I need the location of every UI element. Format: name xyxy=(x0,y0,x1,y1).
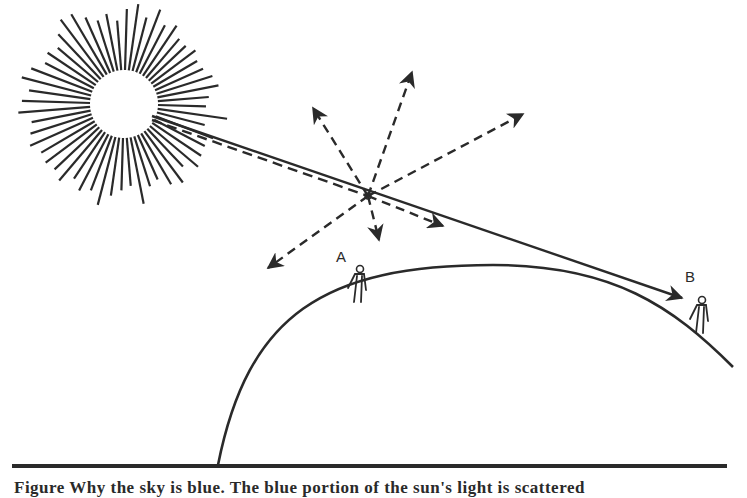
earth-surface-arc xyxy=(218,265,733,465)
sun-ray xyxy=(117,21,121,70)
sun-ray xyxy=(22,101,90,103)
observer-b-icon xyxy=(690,297,708,334)
blue-light-beam xyxy=(152,120,368,196)
observer-label: B xyxy=(685,268,695,285)
scattered-ray-up xyxy=(368,72,412,196)
sun-ray xyxy=(121,138,123,190)
scattered-ray-lower-left xyxy=(268,196,368,268)
scattered-ray-upper-right xyxy=(368,114,523,196)
sun-ray xyxy=(158,109,227,119)
figure-caption: Figure Why the sky is blue. The blue por… xyxy=(14,478,747,498)
sun-ray xyxy=(129,4,138,70)
scattered-ray-upper-left xyxy=(313,108,368,196)
observers: AB xyxy=(336,248,708,333)
sun-ray xyxy=(158,97,209,101)
sun-ray xyxy=(158,105,206,106)
sun-ray xyxy=(125,9,127,70)
observer-a-icon xyxy=(348,266,366,303)
sun-icon xyxy=(18,4,227,205)
sun-ray xyxy=(127,138,131,186)
scattered-ray-down xyxy=(368,196,379,240)
sun-ray xyxy=(149,46,186,81)
sunlight-beam xyxy=(152,116,682,298)
observer-label: A xyxy=(336,248,346,265)
sun-ray xyxy=(147,129,183,167)
